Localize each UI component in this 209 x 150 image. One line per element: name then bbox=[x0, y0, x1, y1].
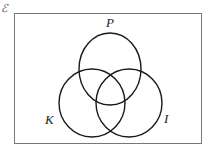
venn-svg bbox=[0, 0, 209, 150]
universal-set-symbol: ℰ bbox=[1, 3, 8, 14]
set-k-label: K bbox=[45, 113, 54, 126]
set-k-circle bbox=[59, 69, 125, 137]
venn-diagram: ℰ P K I bbox=[0, 0, 209, 150]
set-i-circle bbox=[96, 69, 162, 137]
set-p-label: P bbox=[106, 16, 114, 29]
set-i-label: I bbox=[164, 112, 168, 125]
